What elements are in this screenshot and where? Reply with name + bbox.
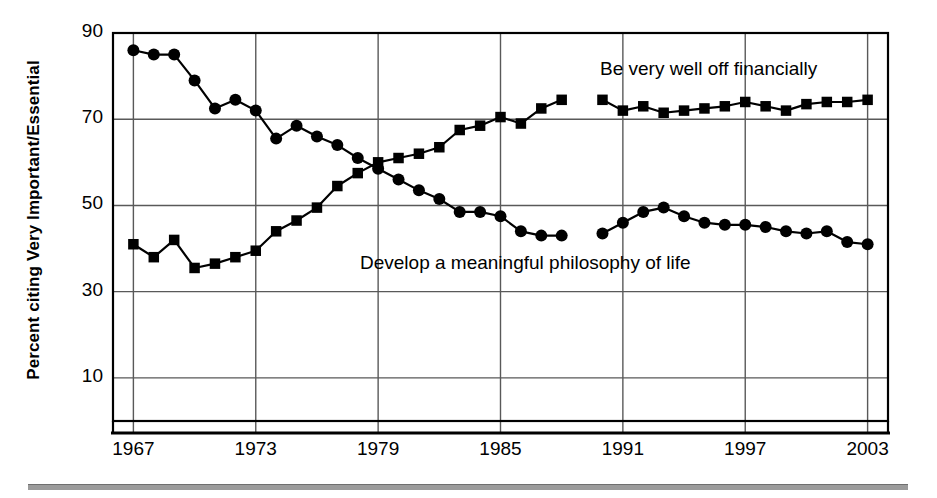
data-point-marker: [250, 105, 262, 117]
series-annotation-philosophy: Develop a meaningful philosophy of life: [360, 252, 691, 274]
data-point-marker: [678, 210, 690, 222]
data-point-marker: [556, 95, 567, 106]
data-point-marker: [311, 130, 323, 142]
data-point-marker: [862, 95, 873, 106]
data-point-marker: [719, 219, 731, 231]
data-point-marker: [189, 263, 200, 274]
data-point-marker: [781, 105, 792, 116]
data-point-marker: [291, 120, 303, 132]
y-tick-label-50: 50: [55, 192, 103, 214]
data-point-marker: [454, 206, 466, 218]
data-point-marker: [495, 210, 507, 222]
y-tick-label-90: 90: [55, 20, 103, 42]
data-point-marker: [271, 226, 282, 237]
y-axis-label-text: Percent citing Very Important/Essential: [24, 60, 44, 379]
data-point-marker: [352, 168, 363, 179]
data-point-marker: [413, 184, 425, 196]
x-tick-label-1991: 1991: [578, 438, 668, 460]
data-point-marker: [270, 133, 282, 145]
data-point-marker: [332, 181, 343, 192]
data-point-marker: [251, 245, 262, 256]
data-point-marker: [801, 99, 812, 110]
data-point-marker: [617, 217, 629, 229]
data-point-marker: [638, 101, 649, 112]
data-point-marker: [210, 258, 221, 269]
data-point-marker: [372, 163, 384, 175]
data-point-marker: [556, 230, 568, 242]
data-point-marker: [760, 221, 772, 233]
data-point-marker: [698, 217, 710, 229]
data-point-marker: [414, 148, 425, 159]
data-point-marker: [536, 103, 547, 114]
data-point-marker: [515, 225, 527, 237]
data-point-marker: [148, 49, 160, 61]
data-point-marker: [821, 225, 833, 237]
data-point-marker: [475, 120, 486, 131]
footer-divider: [28, 484, 908, 490]
x-tick-label-1997: 1997: [700, 438, 790, 460]
data-point-marker: [393, 174, 405, 186]
x-tick-label-1979: 1979: [333, 438, 423, 460]
x-tick-label-1985: 1985: [456, 438, 546, 460]
data-point-marker: [679, 105, 690, 116]
data-point-marker: [740, 97, 751, 108]
data-point-marker: [312, 202, 323, 213]
data-point-marker: [393, 153, 404, 164]
data-point-marker: [433, 193, 445, 205]
x-tick-label-2003: 2003: [823, 438, 913, 460]
data-point-marker: [637, 206, 649, 218]
series-line: [133, 100, 561, 268]
grid-lines: [113, 33, 888, 433]
data-point-marker: [495, 112, 506, 123]
data-point-marker: [149, 252, 160, 263]
data-point-marker: [658, 108, 669, 119]
data-point-marker: [597, 95, 608, 106]
x-tick-label-1973: 1973: [211, 438, 301, 460]
data-point-marker: [739, 219, 751, 231]
y-tick-label-30: 30: [55, 279, 103, 301]
data-point-marker: [127, 44, 139, 56]
data-point-marker: [780, 225, 792, 237]
data-point-marker: [596, 227, 608, 239]
data-point-marker: [800, 227, 812, 239]
data-point-marker: [352, 152, 364, 164]
data-point-marker: [842, 97, 853, 108]
data-point-marker: [454, 125, 465, 136]
data-point-marker: [474, 206, 486, 218]
data-point-marker: [760, 101, 771, 112]
data-point-marker: [841, 236, 853, 248]
data-point-marker: [862, 238, 874, 250]
data-point-marker: [168, 49, 180, 61]
data-point-marker: [535, 230, 547, 242]
data-point-marker: [128, 239, 139, 250]
data-point-marker: [618, 105, 629, 116]
data-point-marker: [516, 118, 527, 129]
data-point-marker: [822, 97, 833, 108]
y-axis-label: Percent citing Very Important/Essential: [10, 0, 58, 440]
data-point-marker: [189, 74, 201, 86]
data-point-marker: [229, 94, 241, 106]
y-tick-label-70: 70: [55, 106, 103, 128]
data-point-marker: [209, 102, 221, 114]
chart-figure: Percent citing Very Important/Essential …: [0, 0, 937, 498]
data-point-marker: [169, 235, 180, 246]
data-point-marker: [331, 139, 343, 151]
x-tick-label-1967: 1967: [88, 438, 178, 460]
data-point-marker: [658, 202, 670, 214]
data-point-marker: [720, 101, 731, 112]
data-point-marker: [434, 142, 445, 153]
series-annotation-finance: Be very well off financially: [600, 58, 817, 80]
data-point-marker: [230, 252, 241, 263]
y-tick-label-10: 10: [55, 365, 103, 387]
data-point-marker: [291, 215, 302, 226]
data-point-marker: [699, 103, 710, 114]
